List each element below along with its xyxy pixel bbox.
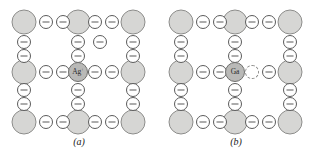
host-cation-a-5 <box>12 110 37 135</box>
anion-a-17 <box>126 83 140 97</box>
anion-a-2 <box>88 15 102 29</box>
dopant-label-b: Ga <box>231 68 239 76</box>
panel-b: Ga (b) <box>157 0 315 158</box>
host-cation-b-7 <box>278 110 303 135</box>
host-cation-a-7 <box>121 110 146 135</box>
panel-b-caption: (b) <box>157 136 315 147</box>
anion-a-14 <box>105 65 119 79</box>
host-cation-b-5 <box>169 110 194 135</box>
lattice-defect-figure: Ag+ (a) Ga (b) <box>0 0 315 158</box>
lattice-grid-b: Ga <box>157 0 315 135</box>
anion-b-5 <box>228 35 242 49</box>
anion-b-0 <box>196 15 210 29</box>
anion-a-6 <box>93 35 107 49</box>
lattice-grid-a: Ag+ <box>0 0 158 135</box>
anion-b-3 <box>262 15 276 29</box>
host-cation-a-2 <box>121 10 146 35</box>
anion-b-2 <box>245 15 259 29</box>
anion-a-16 <box>71 83 85 97</box>
anion-b-14 <box>228 83 242 97</box>
anion-a-7 <box>126 35 140 49</box>
host-cation-b-0 <box>169 10 194 35</box>
anion-a-22 <box>56 115 70 129</box>
anion-a-18 <box>17 97 31 111</box>
anion-b-17 <box>228 97 242 111</box>
host-cation-a-0 <box>12 10 37 35</box>
host-cation-b-2 <box>278 10 303 35</box>
anion-b-19 <box>196 115 210 129</box>
dopant-site-a: Ag+ <box>68 62 88 82</box>
anion-b-10 <box>196 65 210 79</box>
anion-a-9 <box>71 49 85 63</box>
anion-b-13 <box>174 83 188 97</box>
anion-b-18 <box>283 97 297 111</box>
host-cation-a-4 <box>121 60 146 85</box>
panel-a-caption: (a) <box>0 136 158 147</box>
anion-a-23 <box>88 115 102 129</box>
anion-b-4 <box>174 35 188 49</box>
anion-b-12 <box>262 65 276 79</box>
anion-a-4 <box>17 35 31 49</box>
anion-a-15 <box>17 83 31 97</box>
anion-b-9 <box>283 49 297 63</box>
panel-a: Ag+ (a) <box>0 0 158 158</box>
host-cation-b-3 <box>169 60 194 85</box>
anion-a-21 <box>39 115 53 129</box>
anion-a-19 <box>71 97 85 111</box>
anion-a-20 <box>126 97 140 111</box>
anion-a-1 <box>56 15 70 29</box>
anion-a-24 <box>105 115 119 129</box>
anion-b-20 <box>213 115 227 129</box>
anion-a-13 <box>88 65 102 79</box>
anion-b-21 <box>245 115 259 129</box>
anion-b-6 <box>283 35 297 49</box>
anion-b-22 <box>262 115 276 129</box>
anion-b-1 <box>213 15 227 29</box>
anion-b-15 <box>283 83 297 97</box>
anion-b-8 <box>228 49 242 63</box>
host-cation-a-3 <box>12 60 37 85</box>
host-cation-b-4 <box>278 60 303 85</box>
anion-a-11 <box>39 65 53 79</box>
anion-a-10 <box>126 49 140 63</box>
dopant-site-b: Ga <box>225 62 245 82</box>
anion-a-0 <box>39 15 53 29</box>
anion-b-7 <box>174 49 188 63</box>
anion-a-8 <box>17 49 31 63</box>
dopant-label-a: Ag+ <box>72 68 83 76</box>
anion-a-5 <box>71 35 85 49</box>
vacancy-b-0 <box>245 65 259 79</box>
anion-a-3 <box>105 15 119 29</box>
anion-b-16 <box>174 97 188 111</box>
